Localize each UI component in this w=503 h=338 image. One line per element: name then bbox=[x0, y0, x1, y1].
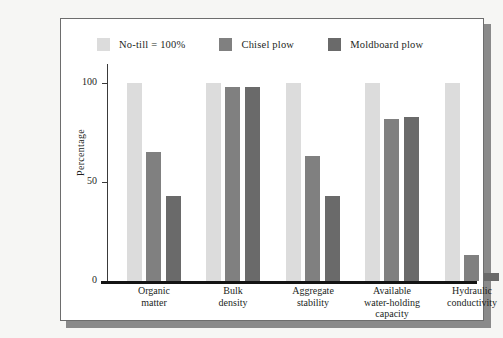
bar-group bbox=[127, 63, 181, 281]
bar bbox=[245, 87, 260, 281]
category-label-line: capacity bbox=[340, 308, 444, 320]
plot-area: Percentage 050100 OrganicmatterBulkdensi… bbox=[61, 19, 485, 322]
bar-group bbox=[286, 63, 340, 281]
bar bbox=[146, 152, 161, 281]
bar-series-layer bbox=[61, 19, 485, 322]
bar-group bbox=[206, 63, 260, 281]
bar-group bbox=[445, 63, 499, 281]
category-label-line: conductivity bbox=[420, 297, 503, 309]
bar-group bbox=[365, 63, 419, 281]
bar bbox=[325, 196, 340, 281]
bar bbox=[305, 156, 320, 281]
bar bbox=[127, 83, 142, 281]
bar-chart-panel: No-till = 100%Chisel plowMoldboard plow … bbox=[60, 18, 484, 321]
x-axis-category-label: Hydraulicconductivity bbox=[420, 285, 503, 308]
category-label-line: Hydraulic bbox=[420, 285, 503, 297]
bar bbox=[225, 87, 240, 281]
bar bbox=[484, 273, 499, 281]
bar bbox=[286, 83, 301, 281]
bar bbox=[404, 117, 419, 281]
bar bbox=[206, 83, 221, 281]
bar bbox=[365, 83, 380, 281]
bar bbox=[384, 119, 399, 282]
bar bbox=[166, 196, 181, 281]
bar bbox=[445, 83, 460, 281]
bar bbox=[464, 255, 479, 281]
